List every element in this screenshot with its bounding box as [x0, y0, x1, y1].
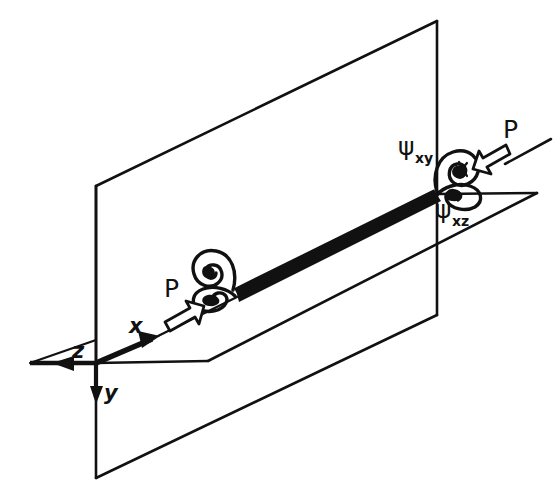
psi-xy-symbol: ψ: [398, 132, 415, 161]
load-right-arrow: [473, 139, 551, 174]
stiffener-bar: [237, 195, 441, 302]
axis-system: [30, 186, 237, 404]
y-axis: [90, 363, 103, 404]
axis-label-y: y: [104, 381, 119, 405]
psi-xz-symbol: ψ: [435, 195, 452, 224]
load-left-arrow: [161, 301, 204, 331]
figure-root: x y z P: [0, 0, 557, 496]
load-right-label: P: [503, 115, 518, 144]
axis-label-x: x: [128, 314, 144, 338]
diagram-canvas: x y z P: [0, 0, 557, 496]
load-left-label: P: [164, 274, 179, 303]
axis-label-z: z: [71, 339, 85, 363]
z-axis: [30, 340, 96, 371]
psi-xy-label: ψ xy: [398, 132, 433, 166]
x-axis: [96, 297, 237, 363]
psi-xy-subscript: xy: [415, 150, 433, 166]
vortex-left-upper: [193, 251, 235, 290]
psi-xz-subscript: xz: [452, 213, 469, 229]
vertical-plane: [96, 21, 437, 478]
horizontal-plane: [96, 193, 537, 363]
